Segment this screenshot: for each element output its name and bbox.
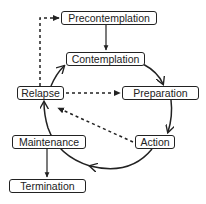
arrow-action-maintenance xyxy=(90,149,152,169)
arrow-relapse-contemplation xyxy=(51,66,64,86)
arrow-preparation-action xyxy=(168,100,172,132)
arrow-contemplation-preparation xyxy=(143,64,163,84)
node-termination: Termination xyxy=(9,179,86,193)
node-precontemplation: Precontemplation xyxy=(61,11,157,25)
diagram-connectors xyxy=(0,0,206,204)
node-action: Action xyxy=(135,135,175,149)
node-contemplation: Contemplation xyxy=(66,52,145,66)
node-relapse: Relapse xyxy=(17,86,64,100)
node-preparation: Preparation xyxy=(122,86,199,100)
node-maintenance: Maintenance xyxy=(12,135,86,149)
